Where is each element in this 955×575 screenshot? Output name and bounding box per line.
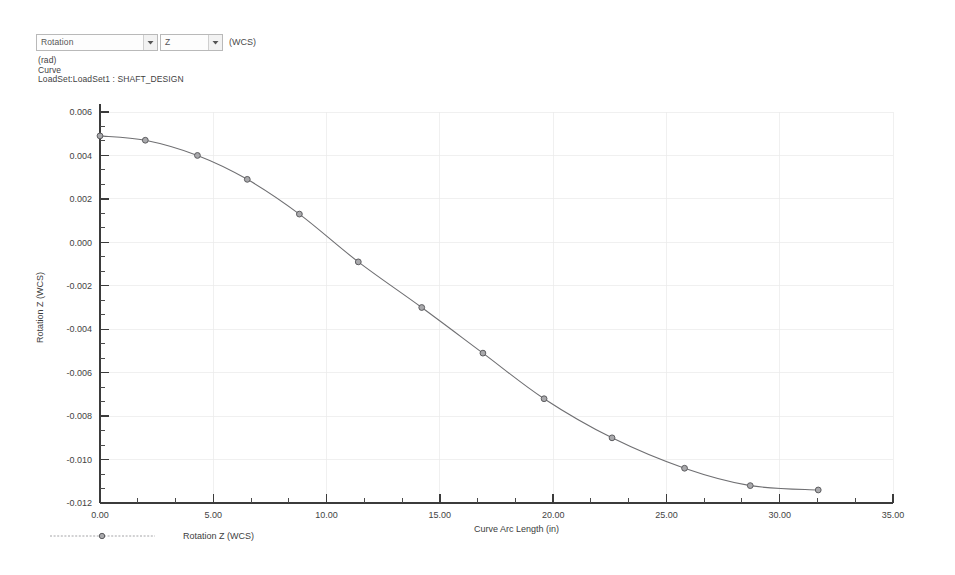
y-tick-label: -0.006 [66,368,92,378]
axis-ticks [100,112,893,503]
component-select-value: Z [161,35,208,50]
y-tick-label: -0.010 [66,455,92,465]
x-tick-label: 25.00 [655,510,678,520]
graph-quantity-toolbar: Rotation Z (WCS) [36,33,256,52]
legend-label: Rotation Z (WCS) [183,531,254,541]
component-select[interactable]: Z [160,34,223,51]
legend-swatch [50,530,155,542]
x-tick-label: 15.00 [429,510,452,520]
y-tick-label: 0.002 [69,194,92,204]
chart-legend: Rotation Z (WCS) [34,527,254,545]
chevron-down-icon[interactable] [143,35,157,50]
y-tick-label: -0.002 [66,281,92,291]
x-tick-label: 20.00 [542,510,565,520]
series-data-point [682,465,688,471]
x-axis-title: Curve Arc Length (in) [474,524,559,534]
grid-lines [100,112,893,503]
y-tick-labels: 0.0060.0040.0020.000-0.002-0.004-0.006-0… [66,107,92,508]
series-data-point [195,153,201,159]
graph-caption: (rad) Curve LoadSet:LoadSet1 : SHAFT_DES… [38,56,184,85]
circle-marker-icon [99,533,104,538]
graph-svg: 0.005.0010.0015.0020.0025.0030.0035.00 0… [0,0,955,575]
caption-loadset: LoadSet:LoadSet1 : SHAFT_DESIGN [38,75,184,85]
chevron-down-icon[interactable] [208,35,222,50]
series-data-point [541,396,547,402]
y-tick-label: -0.004 [66,324,92,334]
series-data-point [97,133,103,139]
series-data-point [747,483,753,489]
x-tick-labels: 0.005.0010.0015.0020.0025.0030.0035.00 [91,510,904,520]
y-tick-label: -0.008 [66,411,92,421]
x-tick-label: 5.00 [205,510,223,520]
x-tick-label: 35.00 [882,510,905,520]
axis-lines [100,104,893,503]
series-data-point [142,137,148,143]
y-axis-title: Rotation Z (WCS) [35,272,45,343]
quantity-select-value: Rotation [37,35,143,50]
x-tick-label: 10.00 [315,510,338,520]
series-data-point [244,176,250,182]
series-data-point [480,350,486,356]
data-series [97,133,821,493]
series-data-point [419,305,425,311]
y-tick-label: 0.004 [69,151,92,161]
x-tick-label: 0.00 [91,510,109,520]
series-data-point [296,211,302,217]
quantity-select[interactable]: Rotation [36,34,158,51]
y-tick-label: 0.006 [69,107,92,117]
x-tick-label: 30.00 [768,510,791,520]
coordinate-system-label: (WCS) [229,34,256,51]
series-data-point [609,435,615,441]
y-tick-label: 0.000 [69,238,92,248]
y-tick-label: -0.012 [66,498,92,508]
series-line [100,136,818,490]
series-data-point [355,259,361,265]
series-data-point [815,487,821,493]
axis-titles: Curve Arc Length (in)Rotation Z (WCS) [35,272,559,534]
graph-plot-area: 0.005.0010.0015.0020.0025.0030.0035.00 0… [0,0,955,575]
